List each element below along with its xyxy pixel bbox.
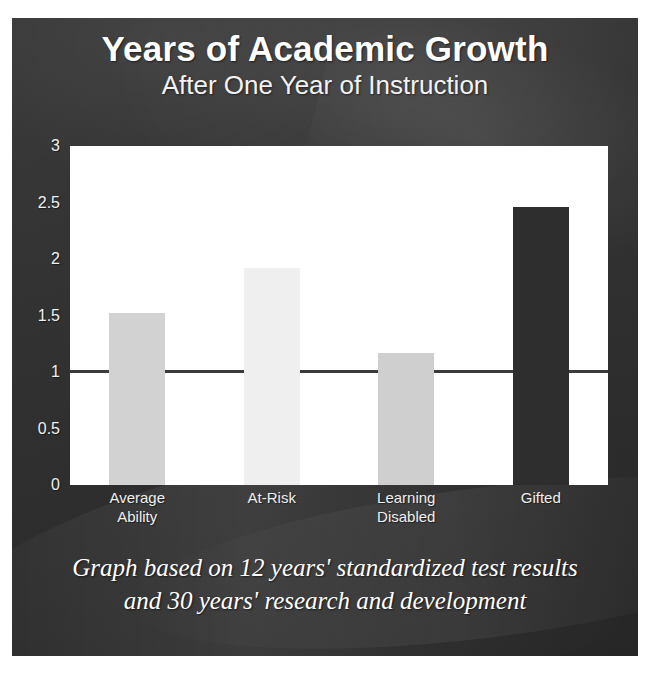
y-axis-tick-label: 2.5 <box>38 194 60 212</box>
y-axis-tick-label: 0 <box>51 476 60 494</box>
bar-average-ability <box>109 313 165 485</box>
category-label-line: Disabled <box>339 508 474 527</box>
y-axis: 00.511.522.53 <box>12 146 64 485</box>
bar-at-risk <box>244 268 300 485</box>
x-axis-category-label: Gifted <box>474 489 609 508</box>
bar-learning-disabled <box>378 353 434 485</box>
y-axis-tick-label: 2 <box>51 250 60 268</box>
y-axis-tick-label: 3 <box>51 137 60 155</box>
caption-line-1: Graph based on 12 years' standardized te… <box>28 551 622 584</box>
x-axis-category-label: LearningDisabled <box>339 489 474 527</box>
category-label-line: Gifted <box>474 489 609 508</box>
y-axis-tick-label: 0.5 <box>38 420 60 438</box>
category-label-line: Ability <box>70 508 205 527</box>
presentation-slide: Years of Academic Growth After One Year … <box>12 18 638 656</box>
x-axis-category-label: AverageAbility <box>70 489 205 527</box>
chart-caption: Graph based on 12 years' standardized te… <box>28 551 622 617</box>
caption-line-2: and 30 years' research and development <box>28 584 622 617</box>
x-axis-category-labels: AverageAbilityAt-RiskLearningDisabledGif… <box>70 489 608 545</box>
y-axis-tick-label: 1 <box>51 363 60 381</box>
x-axis-category-label: At-Risk <box>205 489 340 508</box>
category-label-line: At-Risk <box>205 489 340 508</box>
category-label-line: Average <box>70 489 205 508</box>
category-label-line: Learning <box>339 489 474 508</box>
y-axis-tick-label: 1.5 <box>38 307 60 325</box>
bar-gifted <box>513 207 569 485</box>
plot-area <box>70 146 608 485</box>
